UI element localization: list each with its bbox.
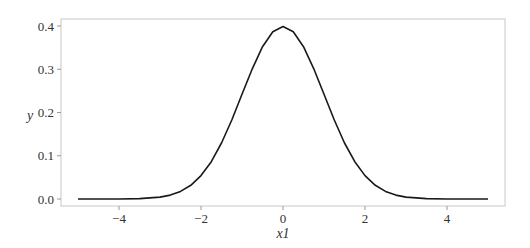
y-tick-label: 0.0 bbox=[38, 192, 54, 207]
y-tick-label: 0.1 bbox=[38, 148, 54, 163]
x-tick-label: −2 bbox=[194, 211, 208, 226]
x-tick-label: −4 bbox=[112, 211, 126, 226]
x-tick-label: 2 bbox=[362, 211, 369, 226]
x-axis-label: x1 bbox=[275, 226, 289, 241]
x-tick-label: 0 bbox=[280, 211, 287, 226]
y-tick-label: 0.3 bbox=[38, 62, 54, 77]
y-tick-label: 0.2 bbox=[38, 105, 54, 120]
chart: 0.00.10.20.30.4 −4−2024 x1 y bbox=[0, 0, 530, 248]
x-tick-label: 4 bbox=[444, 211, 451, 226]
y-axis: 0.00.10.20.30.4 bbox=[38, 19, 61, 207]
x-axis: −4−2024 bbox=[112, 206, 451, 226]
plot-area bbox=[61, 19, 505, 206]
y-tick-label: 0.4 bbox=[38, 19, 55, 34]
y-axis-label: y bbox=[25, 108, 34, 123]
